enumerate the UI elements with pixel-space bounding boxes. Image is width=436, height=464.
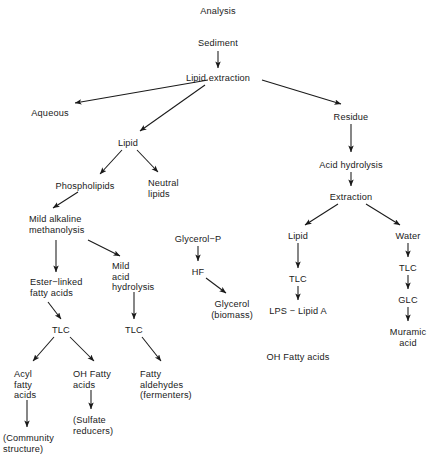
node-mild-acid: Mild acid hydrolysis [112,261,154,293]
node-tlc-left: TLC [52,325,70,336]
node-water: Water [396,231,421,242]
node-fatty-aldehydes: Fatty aldehydes (fermenters) [140,369,192,401]
node-ester-linked: Ester−linked fatty acids [30,277,83,298]
flowchart-diagram: AnalysisSedimentLipid extractionAqueousL… [0,0,436,464]
arrow-phospholipids-to-mild-alkaline [53,192,78,208]
arrow-lipid-extraction-to-lipid [140,85,205,131]
node-lipid-2: Lipid [288,231,308,242]
node-extraction: Extraction [330,192,372,203]
node-tlc-mid: TLC [125,325,143,336]
node-oh-fatty-acids-1: OH Fatty acids [73,369,111,390]
arrow-tlc-left-to-oh-fatty [70,337,94,361]
node-analysis: Analysis [200,6,235,17]
node-acyl-fatty-acids: Acyl fatty acids [14,369,36,401]
node-mild-alkaline: Mild alkaline methanolysis [29,214,84,235]
arrow-tlc-mid-to-fatty-aldehydes [142,337,161,361]
arrow-mild-alkaline-to-mild-acid [88,240,120,256]
node-neutral-lipids: Neutral lipids [148,178,179,199]
node-aqueous: Aqueous [31,108,68,119]
node-acid-hydrolysis: Acid hydrolysis [319,160,383,171]
node-glycerol-p: Glycerol−P [175,234,222,245]
arrow-ester-linked-to-tlc-left [48,302,61,319]
arrow-lipid-to-phospholipids [100,150,122,174]
arrow-lipid-to-neutral-lipids [137,150,158,172]
node-tlc-right-b: TLC [399,263,417,274]
node-tlc-right-a: TLC [289,274,307,285]
arrow-extraction-to-water [366,204,400,225]
node-lps-lipid-a: LPS − Lipid A [269,306,326,317]
arrow-hf-to-glycerol [206,278,226,293]
node-sulfate-reducers: (Sulfate reducers) [73,415,113,436]
node-muramic-acid: Muramic acid [390,327,426,348]
node-hf: HF [192,267,205,278]
node-oh-fatty-acids-2: OH Fatty acids [267,352,330,363]
arrow-lipid-extraction-to-residue [262,80,341,104]
node-glc: GLC [398,295,417,306]
node-sediment: Sediment [198,38,238,49]
node-lipid-1: Lipid [118,138,138,149]
node-glycerol-biomass: Glycerol (biomass) [211,299,253,320]
node-residue: Residue [334,112,369,123]
node-phospholipids: Phospholipids [55,181,114,192]
node-lipid-extraction: Lipid extraction [186,73,250,84]
arrow-tlc-left-to-acyl [33,337,54,361]
node-community-structure: (Community structure) [3,433,54,454]
arrow-extraction-to-lipid [305,204,338,225]
